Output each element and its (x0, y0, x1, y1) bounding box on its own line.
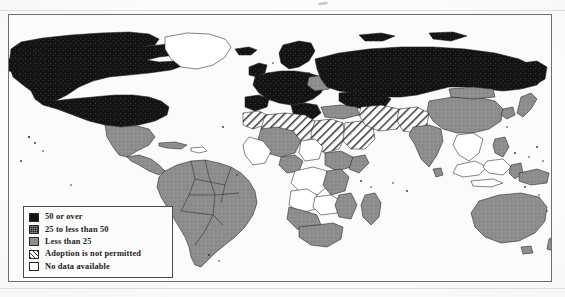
region-mongolia (449, 87, 495, 99)
legend-label-no-data-available: No data available (45, 262, 110, 272)
map-frame: 50 or over 25 to less than 50 Less than … (8, 14, 552, 282)
legend-label-50-or-over: 50 or over (45, 212, 83, 222)
scanned-page: 50 or over 25 to less than 50 Less than … (0, 0, 565, 297)
page-rule-top (0, 10, 565, 11)
legend-swatch-25-to-less-than-50 (29, 225, 39, 234)
legend-row: Adoption is not permitted (29, 248, 168, 260)
legend-swatch-no-data-available (29, 262, 39, 271)
legend-label-25-to-less-than-50: 25 to less than 50 (45, 225, 109, 235)
legend-label-less-than-25: Less than 25 (45, 237, 91, 247)
page-rule-bottom (0, 288, 565, 289)
region-tasmania (521, 246, 533, 254)
scan-artifact-mark (318, 1, 328, 5)
map-legend: 50 or over 25 to less than 50 Less than … (23, 206, 173, 278)
legend-swatch-adoption-not-permitted (29, 250, 39, 259)
legend-row: Less than 25 (29, 236, 168, 248)
legend-row: 25 to less than 50 (29, 223, 168, 235)
legend-row: 50 or over (29, 211, 168, 223)
legend-row: No data available (29, 261, 168, 273)
legend-label-adoption-not-permitted: Adoption is not permitted (45, 249, 141, 259)
legend-swatch-50-or-over (29, 213, 39, 222)
legend-swatch-less-than-25 (29, 237, 39, 246)
